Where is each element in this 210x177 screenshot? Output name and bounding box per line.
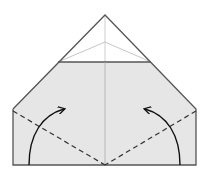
origami-diagram [0,0,210,177]
top-flap-triangle [58,15,151,62]
paper-body [13,62,196,165]
